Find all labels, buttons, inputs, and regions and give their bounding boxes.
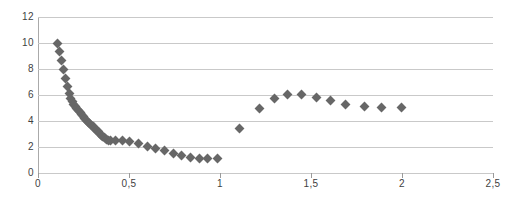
data-point-marker [55,46,65,56]
data-point-marker [59,65,69,75]
y-tick-label: 10 [2,38,34,48]
data-point-marker [212,154,222,164]
data-point-marker [325,96,335,106]
data-point-marker [125,137,135,147]
grid-line [38,173,493,174]
data-point-marker [203,154,213,164]
grid-line [38,43,493,44]
data-point-marker [57,56,67,66]
grid-line [38,147,493,148]
x-tick-label: 0,5 [109,179,149,189]
data-point-marker [52,38,62,48]
grid-line [38,95,493,96]
y-tick-label: 2 [2,142,34,152]
data-point-marker [282,89,292,99]
plot-area [38,17,493,173]
data-point-marker [254,103,264,113]
data-point-marker [360,101,370,111]
x-tick-label: 1 [200,179,240,189]
y-tick-label: 12 [2,12,34,22]
y-tick-label: 4 [2,116,34,126]
data-point-marker [60,73,70,83]
grid-line [38,69,493,70]
x-tick-label: 1,5 [291,179,331,189]
x-tick-label: 0 [18,179,58,189]
y-tick-label: 6 [2,90,34,100]
data-point-marker [297,89,307,99]
y-tick-label: 8 [2,64,34,74]
data-point-marker [396,102,406,112]
data-point-marker [177,150,187,160]
y-tick-label: 0 [2,168,34,178]
grid-line [38,121,493,122]
data-point-marker [234,124,244,134]
x-tick-label: 2 [382,179,422,189]
y-axis-labels: 024681012 [0,0,34,200]
x-tick-label: 2,5 [473,179,513,189]
data-point-marker [341,99,351,109]
data-point-marker [377,102,387,112]
scatter-chart: 024681012 00,511,522,5 [0,0,516,200]
grid-line [38,17,493,18]
